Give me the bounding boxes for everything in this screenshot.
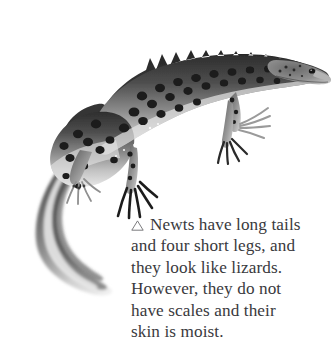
caption-line-3: they look like lizards.: [131, 257, 331, 278]
caption-line-1: Newts have long tails: [131, 214, 331, 235]
page-root: Newts have long tails and four short leg…: [0, 0, 336, 360]
caption-text-line-1: Newts have long tails: [150, 215, 301, 234]
caption-line-2: and four short legs, and: [131, 235, 331, 256]
newt-front-legs: [218, 92, 270, 164]
triangle-up-outline-icon: [131, 220, 144, 231]
caption-block: Newts have long tails and four short leg…: [131, 214, 331, 342]
caption-line-4: However, they do not: [131, 278, 331, 299]
caption-line-6: skin is moist.: [131, 321, 331, 342]
caption-line-5: have scales and their: [131, 300, 331, 321]
newt-eye: [309, 68, 315, 73]
